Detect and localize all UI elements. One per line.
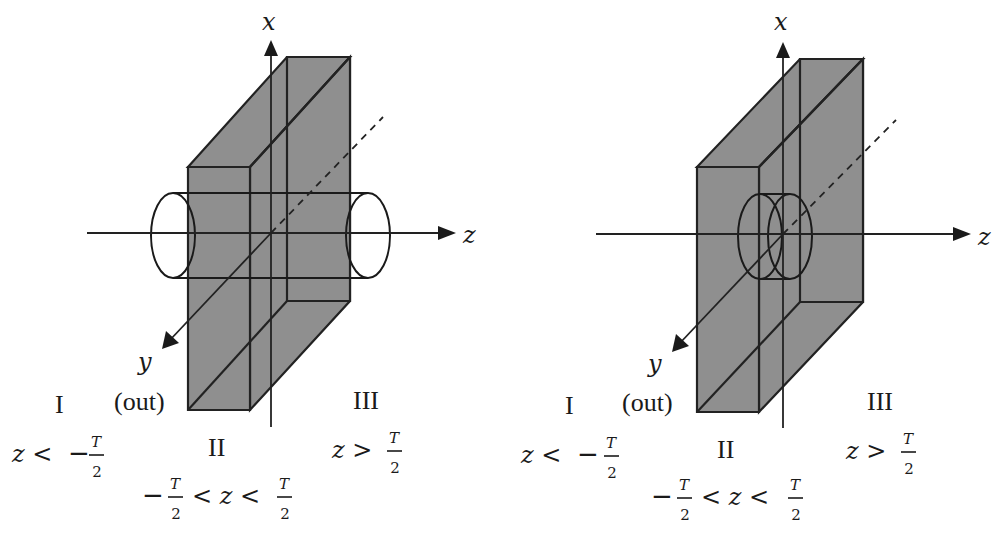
svg-text:z <: z <	[11, 440, 52, 468]
svg-text:z <: z <	[520, 441, 561, 469]
left-panel: x z y (out) I z < − T 2 II − T 2 < z < T…	[11, 8, 476, 523]
x-axis-label: x	[774, 8, 788, 36]
svg-text:< z <: < z <	[701, 483, 769, 511]
svg-text:T: T	[389, 429, 400, 447]
svg-text:−: −	[142, 480, 164, 510]
svg-text:2: 2	[92, 463, 102, 481]
x-axis-label: x	[262, 8, 276, 36]
region-I-label: I	[55, 390, 64, 419]
region-III-label: III	[867, 387, 893, 416]
region-II-condition: − T 2 < z < T 2	[651, 476, 803, 524]
z-axis-label: z	[977, 223, 991, 251]
svg-text:z >: z >	[331, 436, 372, 464]
cylinder-right-ellipse	[346, 193, 390, 278]
svg-text:T: T	[91, 433, 102, 451]
region-I-label: I	[565, 391, 574, 420]
svg-text:T: T	[606, 434, 617, 452]
x-axis-arrowhead	[264, 40, 278, 56]
region-III-label: III	[353, 386, 379, 415]
region-II-condition: − T 2 < z < T 2	[142, 475, 292, 523]
svg-text:2: 2	[390, 459, 400, 477]
right-panel: x z y (out) I z < − T 2 II − T 2 < z < T…	[520, 8, 991, 524]
svg-text:2: 2	[904, 460, 914, 478]
svg-text:T: T	[903, 430, 914, 448]
y-axis-note: (out)	[622, 388, 673, 417]
region-II-label: II	[208, 433, 225, 462]
svg-text:T: T	[790, 476, 801, 494]
svg-text:T: T	[170, 475, 181, 493]
y-axis-label: y	[137, 348, 152, 376]
z-axis-arrowhead	[953, 227, 971, 241]
region-III-condition: z > T 2	[331, 429, 402, 477]
slab-front-face	[697, 167, 759, 412]
svg-text:< z <: < z <	[192, 482, 260, 510]
svg-text:−: −	[577, 439, 599, 469]
svg-text:2: 2	[607, 464, 617, 482]
z-axis-arrowhead	[438, 226, 456, 240]
svg-text:−: −	[68, 438, 90, 468]
svg-text:T: T	[279, 475, 290, 493]
figure: x z y (out) I z < − T 2 II − T 2 < z < T…	[0, 0, 997, 537]
svg-text:2: 2	[791, 506, 801, 524]
svg-text:2: 2	[680, 506, 690, 524]
region-III-condition: z > T 2	[845, 430, 916, 478]
region-I-condition: z < − T 2	[11, 433, 104, 481]
svg-text:−: −	[651, 481, 673, 511]
y-axis-label: y	[647, 350, 662, 378]
region-II-label: II	[717, 435, 734, 464]
region-I-condition: z < − T 2	[520, 434, 619, 482]
svg-text:2: 2	[171, 505, 181, 523]
svg-text:2: 2	[280, 505, 290, 523]
y-axis-note: (out)	[114, 387, 165, 416]
z-axis-label: z	[462, 221, 476, 249]
svg-text:z >: z >	[845, 437, 886, 465]
cylinder-left-back-arc	[151, 193, 173, 278]
x-axis-arrowhead	[776, 42, 790, 58]
svg-text:T: T	[679, 476, 690, 494]
